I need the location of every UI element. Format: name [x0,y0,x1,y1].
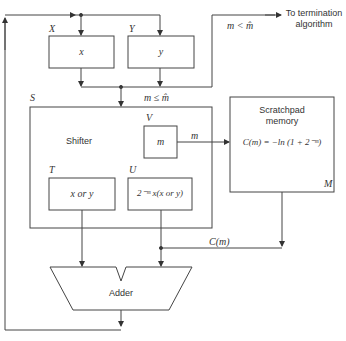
termination-label-1: To termination [283,8,345,18]
register-u-name: U [129,164,136,175]
register-y-name: Y [129,23,135,34]
register-u-content: 2⁻ᵐ x(x or y) [128,188,192,198]
register-t-content: x or y [49,188,115,199]
register-x-name: X [49,23,55,34]
edge-c-m: C(m) [209,236,230,247]
edge-m-lt-mhat: m < m̂ [227,20,253,31]
scratchpad-formula: C(m) = −ln (1 + 2⁻ᵐ) [230,137,334,147]
shifter-name: S [30,92,35,103]
edge-m-to-memory: m [191,130,198,141]
shifter-label: Shifter [66,136,92,146]
scratchpad-title-1: Scratchpad [230,105,334,115]
register-v-name: V [146,112,152,123]
adder-label: Adder [73,288,169,298]
scratchpad-title-2: memory [230,116,334,126]
edge-m-le-mhat: m ≤ m̂ [144,92,169,103]
scratchpad-name: M [324,178,332,189]
register-y-content: y [128,46,194,57]
register-x-content: x [49,46,114,57]
termination-label-2: algorithm [283,19,345,29]
register-v-content: m [144,136,177,147]
register-t-name: T [49,164,55,175]
